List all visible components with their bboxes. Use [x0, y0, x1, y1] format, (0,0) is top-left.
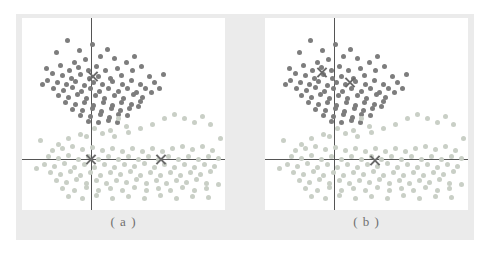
scatter-point [293, 148, 298, 153]
scatter-point [307, 180, 312, 185]
scatter-point [63, 100, 68, 105]
scatter-point [326, 57, 331, 62]
scatter-point [208, 122, 213, 127]
scatter-point [202, 162, 207, 167]
scatter-point [435, 120, 440, 125]
scatter-point [51, 86, 56, 91]
scatter-point [84, 185, 89, 190]
scatter-point [55, 80, 60, 85]
scatter-point [363, 188, 368, 193]
scatter-point [126, 154, 131, 159]
scatter-point [84, 134, 89, 139]
scatter-point [150, 122, 155, 127]
scatter-point [325, 162, 330, 167]
scatter-point [407, 181, 412, 186]
scatter-point [399, 157, 404, 162]
scatter-point [80, 108, 85, 113]
scatter-point [297, 50, 302, 55]
scatter-point [409, 154, 414, 159]
centroid-marker [85, 153, 98, 166]
scatter-point [304, 88, 309, 93]
scatter-point [339, 188, 344, 193]
scatter-point [83, 57, 88, 62]
scatter-point [119, 73, 124, 78]
scatter-point [190, 194, 195, 199]
scatter-point [116, 116, 121, 121]
scatter-point [461, 136, 466, 141]
panel-b-caption: ( b ) [265, 214, 468, 230]
scatter-point [157, 86, 162, 91]
scatter-point [110, 196, 115, 201]
scatter-point [124, 124, 129, 129]
scatter-point [427, 180, 432, 185]
scatter-panel-a [22, 18, 225, 210]
scatter-point [116, 157, 121, 162]
scatter-point [459, 156, 464, 161]
scatter-point [146, 154, 151, 159]
scatter-point [206, 195, 211, 200]
scatter-point [156, 186, 161, 191]
scatter-point [216, 156, 221, 161]
scatter-point [433, 194, 438, 199]
scatter-point [277, 166, 282, 171]
scatter-point [142, 196, 147, 201]
scatter-point [389, 154, 394, 159]
scatter-point [381, 99, 386, 104]
scatter-point [42, 162, 47, 167]
scatter-point [108, 170, 113, 175]
scatter-point [109, 106, 114, 111]
scatter-point [194, 177, 199, 182]
scatter-point [124, 180, 129, 185]
scatter-point [180, 144, 185, 149]
scatter-point [309, 153, 314, 158]
scatter-point [315, 188, 320, 193]
scatter-point [351, 186, 356, 191]
scatter-point [321, 132, 326, 137]
scatter-point [200, 114, 205, 119]
scatter-point [103, 68, 108, 73]
scatter-point [345, 162, 350, 167]
scatter-point [443, 144, 448, 149]
scatter-point [355, 93, 360, 98]
scatter-point [369, 130, 374, 135]
scatter-point [98, 112, 103, 117]
scatter-point [315, 60, 320, 65]
scatter-point [367, 60, 372, 65]
scatter-point [451, 122, 456, 127]
scatter-point [132, 164, 137, 169]
scatter-point [363, 149, 368, 154]
scatter-point [339, 157, 344, 162]
scatter-point [112, 134, 117, 139]
scatter-point [44, 66, 49, 71]
scatter-point [174, 178, 179, 183]
scatter-point [333, 145, 338, 150]
scatter-point [401, 173, 406, 178]
scatter-point [321, 113, 326, 118]
scatter-point [125, 86, 130, 91]
scatter-point [139, 64, 144, 69]
scatter-point [375, 54, 380, 59]
scatter-point [192, 120, 197, 125]
scatter-point [397, 178, 402, 183]
scatter-point [150, 146, 155, 151]
scatter-point [65, 38, 70, 43]
centroid-marker [369, 154, 382, 167]
scatter-point [182, 162, 187, 167]
scatter-point [144, 188, 149, 193]
scatter-point [64, 180, 69, 185]
scatter-point [381, 126, 386, 131]
scatter-point [370, 106, 375, 111]
scatter-point [313, 85, 318, 90]
scatter-point [34, 166, 39, 171]
scatter-point [218, 136, 223, 141]
scatter-point [102, 162, 107, 167]
scatter-point [138, 126, 143, 131]
scatter-point [447, 186, 452, 191]
scatter-point [341, 173, 346, 178]
scatter-point [172, 165, 177, 170]
figure-container: ( a ) ( b ) [0, 0, 490, 256]
scatter-point [174, 196, 179, 201]
scatter-point [130, 68, 135, 73]
scatter-point [297, 178, 302, 183]
scatter-point [136, 157, 141, 162]
